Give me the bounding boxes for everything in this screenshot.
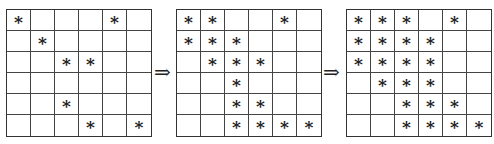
grid-cell	[55, 115, 79, 136]
grid-cell: *	[419, 115, 443, 136]
grid-cell	[103, 52, 127, 73]
grid-cell	[79, 10, 103, 31]
grid-cell	[7, 31, 31, 52]
grid-cell	[79, 73, 103, 94]
grid-cell	[79, 94, 103, 115]
grid-cell	[31, 73, 55, 94]
grid-cell: *	[273, 115, 297, 136]
grid-cell	[201, 73, 225, 94]
grid-cell	[297, 10, 321, 31]
grid-cell: *	[395, 10, 419, 31]
grid-cell	[7, 73, 31, 94]
grid-cell: *	[249, 52, 273, 73]
grid-cell	[249, 73, 273, 94]
grid-2: ****************	[176, 9, 322, 137]
grid-cell	[103, 73, 127, 94]
grid-cell: *	[419, 31, 443, 52]
grid-cell	[297, 73, 321, 94]
grid-cell	[177, 73, 201, 94]
grid-cell: *	[201, 31, 225, 52]
grid-cell	[443, 52, 467, 73]
grid-cell: *	[177, 10, 201, 31]
grid-cell	[177, 115, 201, 136]
grid-cell: *	[371, 10, 395, 31]
grid-cell	[127, 31, 151, 52]
grid-cell	[347, 94, 371, 115]
grid-cell	[127, 73, 151, 94]
grid-cell: *	[347, 52, 371, 73]
grid-cell	[249, 10, 273, 31]
grid-3: **********************	[346, 9, 492, 137]
grid-cell	[103, 115, 127, 136]
grid-cell	[273, 94, 297, 115]
grid-cell	[225, 10, 249, 31]
grid-cell	[31, 115, 55, 136]
grid-cell	[31, 94, 55, 115]
grid-cell	[55, 73, 79, 94]
grid-cell	[273, 52, 297, 73]
grid-cell: *	[347, 31, 371, 52]
grid-cell: *	[249, 115, 273, 136]
grid-cell	[177, 52, 201, 73]
grid-cell	[55, 31, 79, 52]
grid-cell: *	[467, 115, 491, 136]
grid-cell	[127, 94, 151, 115]
grid-cell	[55, 10, 79, 31]
grid-cell	[467, 52, 491, 73]
grid-cell: *	[201, 52, 225, 73]
grid-cell: *	[55, 94, 79, 115]
implies-arrow-2: ⇒	[323, 62, 340, 82]
grid-cell	[79, 31, 103, 52]
grid-cell	[297, 52, 321, 73]
grid-cell	[127, 52, 151, 73]
grid-cell	[467, 31, 491, 52]
grid-cell: *	[371, 31, 395, 52]
grid-cell	[371, 94, 395, 115]
implies-arrow-1: ⇒	[154, 62, 171, 82]
grid-cell	[467, 94, 491, 115]
grid-cell: *	[79, 52, 103, 73]
grid-cell: *	[419, 52, 443, 73]
grid-cell: *	[225, 52, 249, 73]
grid-cell	[347, 73, 371, 94]
grid-cell	[419, 10, 443, 31]
grid-cell	[467, 73, 491, 94]
grid-cell	[443, 73, 467, 94]
grid-cell	[273, 73, 297, 94]
grid-cell	[273, 31, 297, 52]
grid-cell: *	[249, 94, 273, 115]
grid-cell: *	[225, 73, 249, 94]
grid-cell: *	[371, 73, 395, 94]
grid-cell	[7, 115, 31, 136]
grid-cell	[371, 115, 395, 136]
grid-cell	[31, 52, 55, 73]
grid-cell: *	[273, 10, 297, 31]
grid-cell	[297, 31, 321, 52]
grid-cell	[201, 115, 225, 136]
grid-cell	[467, 10, 491, 31]
grid-cell	[297, 94, 321, 115]
grid-cell: *	[395, 73, 419, 94]
grid-cell: *	[55, 52, 79, 73]
grid-cell	[201, 94, 225, 115]
grid-cell: *	[225, 115, 249, 136]
grid-cell	[31, 10, 55, 31]
grid-cell: *	[443, 94, 467, 115]
grid-cell: *	[395, 94, 419, 115]
grid-cell	[177, 94, 201, 115]
grid-cell: *	[225, 94, 249, 115]
grid-cell: *	[201, 10, 225, 31]
grid-1: ********	[6, 9, 152, 137]
grid-cell	[127, 10, 151, 31]
grid-cell: *	[419, 73, 443, 94]
grid-cell: *	[103, 10, 127, 31]
grid-cell: *	[225, 31, 249, 52]
grid-cell	[443, 31, 467, 52]
grid-cell: *	[7, 10, 31, 31]
grid-cell: *	[419, 94, 443, 115]
grid-cell: *	[395, 31, 419, 52]
grid-cell: *	[177, 31, 201, 52]
grid-cell: *	[395, 115, 419, 136]
grid-cell: *	[443, 10, 467, 31]
grid-cell: *	[443, 115, 467, 136]
